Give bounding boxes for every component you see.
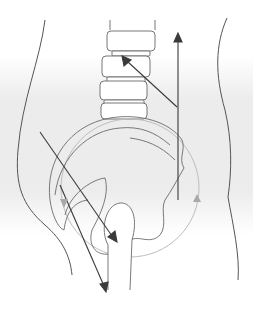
femur xyxy=(104,203,134,290)
pelvic-tilt-diagram xyxy=(0,0,253,310)
arrow-up-icon xyxy=(174,33,182,42)
arrow-down-icon xyxy=(100,282,108,292)
